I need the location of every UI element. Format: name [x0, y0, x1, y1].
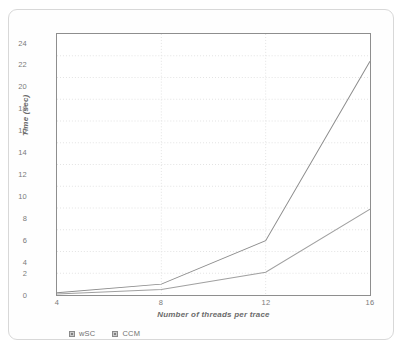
legend-item-label: wSC: [79, 330, 95, 338]
y-axis-tick-label: 14: [1, 149, 27, 157]
y-axis-tick-label: 24: [1, 40, 27, 48]
x-axis-tick-label: 8: [146, 299, 176, 307]
legend-swatch-icon: [69, 331, 75, 337]
legend-item-ccm[interactable]: CCM: [112, 330, 140, 338]
y-axis-tick-label: 0: [1, 292, 27, 300]
legend-item-wsc[interactable]: wSC: [69, 330, 95, 338]
y-axis-tick-label: 22: [1, 61, 27, 69]
x-axis-tick-label: 12: [251, 299, 281, 307]
y-axis-tick-label: 6: [1, 237, 27, 245]
y-axis-tick-label: 20: [1, 83, 27, 91]
series-line-ccm: [57, 209, 370, 294]
series-line-wsc: [57, 61, 370, 293]
x-axis-tick-label: 16: [355, 299, 385, 307]
legend-item-label: CCM: [122, 330, 140, 338]
y-axis-tick-label: 12: [1, 171, 27, 179]
plot-area: [56, 33, 371, 296]
y-axis-title: Time (sec): [21, 95, 30, 136]
data-series-layer: [57, 34, 370, 295]
figure-card: 24 22 20 18 16 14 12 10 8 6 4 2 0 4 8 12…: [8, 9, 394, 340]
y-axis-tick-label: 10: [1, 193, 27, 201]
y-axis-tick-label: 8: [1, 215, 27, 223]
x-axis-tick-label: 4: [42, 299, 72, 307]
legend: wSC CCM: [69, 330, 140, 338]
legend-swatch-icon: [112, 331, 118, 337]
y-axis-tick-label: 4: [1, 259, 27, 267]
y-axis-tick-label: 2: [1, 270, 27, 278]
x-axis-title: Number of threads per trace: [56, 310, 371, 319]
